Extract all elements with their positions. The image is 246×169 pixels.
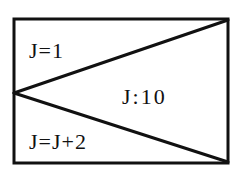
initialization-label: J=1 xyxy=(29,40,64,62)
condition-label: J:10 xyxy=(122,86,167,108)
increment-label: J=J+2 xyxy=(29,131,87,153)
loop-diagram: J=1 J:10 J=J+2 xyxy=(0,0,246,169)
